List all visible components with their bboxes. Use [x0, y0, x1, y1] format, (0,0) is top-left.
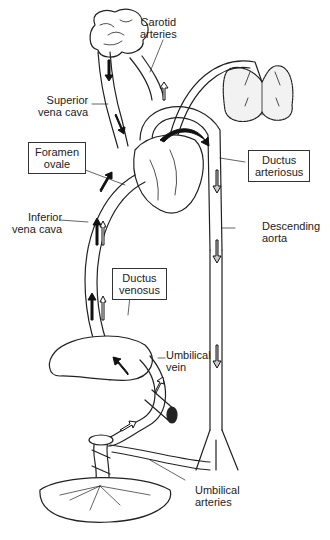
placenta-shape — [40, 478, 171, 523]
liver-shape — [49, 336, 152, 380]
label-inferior-vena-cava: Inferior vena cava — [12, 211, 62, 235]
label-ductus-arteriosus: Ductus arteriosus — [248, 150, 310, 182]
lungs-shape — [223, 66, 293, 122]
umbilical-arteries-vessel — [110, 445, 210, 470]
label-umbilical-arteries: Umbilical arteries — [195, 484, 240, 508]
fetal-circulation-diagram: Carotid arteries Superior vena cava Fora… — [0, 0, 330, 540]
label-carotid-arteries: Carotid arteries — [140, 16, 177, 40]
label-ductus-venosus: Ductus venosus — [112, 268, 167, 300]
label-descending-aorta: Descending aorta — [262, 220, 320, 244]
label-foramen-ovale: Foramen ovale — [28, 142, 86, 174]
heart-shape — [134, 135, 204, 213]
label-umbilical-vein: Umbilical vein — [166, 349, 211, 373]
descending-aorta-vessel — [210, 250, 222, 430]
label-superior-vena-cava: Superior vena cava — [38, 94, 88, 118]
